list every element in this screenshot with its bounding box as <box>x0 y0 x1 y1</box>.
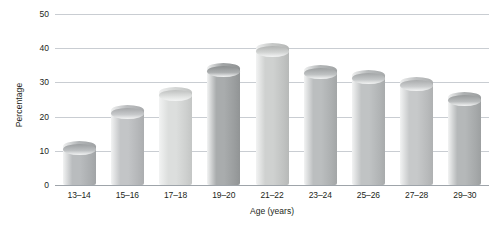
x-axis-tick-label: 27–28 <box>393 190 441 200</box>
bar-body <box>111 110 144 185</box>
bar <box>159 93 192 185</box>
bar <box>111 110 144 185</box>
x-axis-tick-label: 19–20 <box>200 190 248 200</box>
y-axis-tick-label: 20 <box>27 112 49 122</box>
bar-top-inner-ellipse <box>352 73 385 84</box>
bar-top-inner-ellipse <box>256 46 289 57</box>
bars-group <box>55 14 489 185</box>
bar-body <box>304 70 337 185</box>
bar-body <box>352 76 385 185</box>
x-axis-tick-label: 29–30 <box>441 190 489 200</box>
bar <box>63 146 96 185</box>
bar-body <box>448 98 481 185</box>
bar-body <box>159 93 192 185</box>
x-axis-tick-label: 21–22 <box>248 190 296 200</box>
x-axis-tick-labels: 13–1415–1617–1819–2021–2223–2425–2627–28… <box>55 190 489 204</box>
x-axis-tick-label: 17–18 <box>151 190 199 200</box>
bar-top-inner-ellipse <box>63 144 96 155</box>
bar-body <box>400 82 433 185</box>
y-axis-title: Percentage <box>14 50 24 160</box>
y-axis-tick-label: 50 <box>27 9 49 19</box>
bar-top-inner-ellipse <box>400 80 433 91</box>
bar <box>352 76 385 185</box>
bar-top-inner-ellipse <box>111 108 144 119</box>
y-axis-tick-label: 0 <box>27 180 49 190</box>
y-axis-tick-label: 40 <box>27 43 49 53</box>
x-axis-tick-label: 25–26 <box>344 190 392 200</box>
y-axis-tick-label: 10 <box>27 146 49 156</box>
x-axis-line <box>55 185 489 186</box>
bar-body <box>256 48 289 185</box>
bar <box>256 48 289 185</box>
x-axis-tick-label: 15–16 <box>103 190 151 200</box>
bar-body <box>207 69 240 185</box>
x-axis-tick-label: 23–24 <box>296 190 344 200</box>
bar <box>448 98 481 185</box>
x-axis-title: Age (years) <box>55 206 489 216</box>
x-axis-tick-label: 13–14 <box>55 190 103 200</box>
bar <box>207 69 240 185</box>
bar <box>400 82 433 185</box>
bar-chart: Percentage 01020304050 13–1415–1617–1819… <box>0 0 499 236</box>
bar <box>304 70 337 185</box>
y-axis-tick-label: 30 <box>27 77 49 87</box>
bar-top-inner-ellipse <box>304 68 337 79</box>
